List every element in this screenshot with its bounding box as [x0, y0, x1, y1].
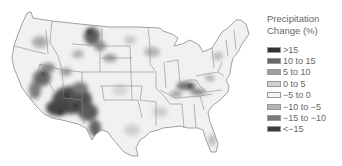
legend-swatch — [267, 81, 281, 87]
legend-label: 10 to 15 — [283, 56, 316, 66]
legend-item: 5 to 10 — [267, 67, 342, 78]
legend-label: <−15 — [283, 124, 304, 134]
legend-item: <−15 — [267, 124, 342, 135]
legend-label: 5 to 10 — [283, 67, 311, 77]
legend-item: 10 to 15 — [267, 55, 342, 66]
legend-swatch — [267, 126, 281, 132]
legend-title: Precipitation Change (%) — [267, 13, 342, 37]
legend-swatch — [267, 47, 281, 53]
legend-title-line1: Precipitation — [267, 13, 342, 25]
legend-label: >15 — [283, 45, 298, 55]
legend-swatch — [267, 58, 281, 64]
legend-item: −15 to −10 — [267, 112, 342, 123]
us-precipitation-map — [0, 0, 256, 166]
legend: Precipitation Change (%) >15 10 to 15 5 … — [267, 13, 342, 135]
legend-swatch — [267, 104, 281, 110]
legend-swatch — [267, 115, 281, 121]
legend-label: −10 to −5 — [283, 102, 321, 112]
legend-item: −5 to 0 — [267, 90, 342, 101]
legend-label: 0 to 5 — [283, 79, 306, 89]
legend-label: −15 to −10 — [283, 113, 326, 123]
legend-title-line2: Change (%) — [267, 25, 342, 37]
legend-swatch — [267, 92, 281, 98]
legend-item: 0 to 5 — [267, 78, 342, 89]
legend-label: −5 to 0 — [283, 90, 311, 100]
legend-item: >15 — [267, 44, 342, 55]
legend-swatch — [267, 69, 281, 75]
legend-item: −10 to −5 — [267, 101, 342, 112]
precipitation-shading — [0, 0, 256, 166]
